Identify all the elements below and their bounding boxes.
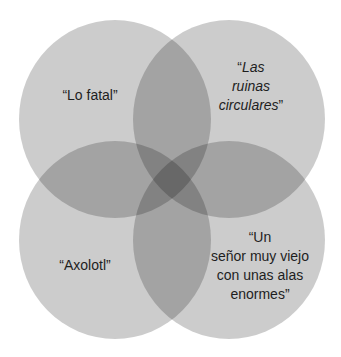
label-line: señor muy viejo [211, 247, 309, 266]
label-lo-fatal: “Lo fatal” [62, 86, 117, 105]
label-line: “Axolotl” [59, 256, 110, 275]
label-line: “Lo fatal” [62, 86, 117, 105]
label-axolotl: “Axolotl” [59, 256, 110, 275]
title-text: Las [242, 59, 265, 75]
label-un-senor-muy-viejo: “Un señor muy viejo con unas alas enorme… [211, 228, 309, 304]
close-quote: ” [279, 97, 284, 113]
label-line: “Un [211, 228, 309, 247]
label-line: “Las [219, 58, 284, 77]
label-las-ruinas-circulares: “Las ruinas circulares” [219, 58, 284, 115]
title-text: circulares [219, 97, 279, 113]
label-line: con unas alas [211, 266, 309, 285]
label-line: enormes” [211, 285, 309, 304]
label-line: ruinas [219, 77, 284, 96]
label-line: circulares” [219, 96, 284, 115]
